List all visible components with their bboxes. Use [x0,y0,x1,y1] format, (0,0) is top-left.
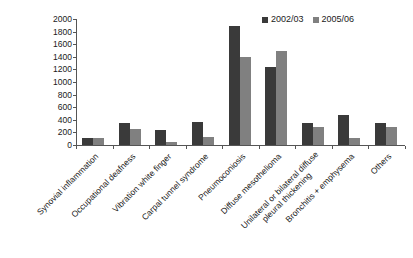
bar [166,142,177,145]
x-tick-mark [186,146,187,149]
y-tick-label: 0 [67,141,72,150]
y-tick-label: 200 [58,128,72,137]
x-tick-mark [149,146,150,149]
x-tick-mark [368,146,369,149]
y-tick-label: 800 [58,90,72,99]
bar [229,26,240,145]
bar [240,57,251,145]
x-tick-mark [295,146,296,149]
x-axis-line [76,145,405,146]
y-tick-label: 1000 [53,78,72,87]
bar [192,122,203,145]
bar [203,137,214,145]
bar-chart: 2002/03 2005/06 020040060080010001200140… [0,0,413,258]
bar [386,127,397,145]
y-tick-label: 400 [58,116,72,125]
x-tick-mark [113,146,114,149]
bar [302,123,313,145]
x-tick-mark [76,146,77,149]
bar [130,129,141,145]
x-tick-mark [332,146,333,149]
y-tick-label: 600 [58,103,72,112]
x-tick-mark [222,146,223,149]
y-tick-label: 1600 [53,40,72,49]
bar [93,138,104,145]
bar [265,67,276,145]
y-tick-label: 1800 [53,27,72,36]
y-tick-label: 1200 [53,65,72,74]
bar [313,127,324,145]
bar [349,138,360,145]
y-tick-label: 1400 [53,53,72,62]
bar [338,115,349,145]
y-tick-label: 2000 [53,15,72,24]
y-axis-tick-labels: 0200400600800100012001400160018002000 [48,14,72,146]
bars-layer [76,19,405,145]
bar [375,123,386,145]
bar [276,51,287,145]
bar [155,130,166,145]
x-tick-mark [259,146,260,149]
plot-area: 0200400600800100012001400160018002000 [0,0,413,258]
x-tick-mark [405,146,406,149]
bar [119,123,130,145]
bar [82,138,93,145]
